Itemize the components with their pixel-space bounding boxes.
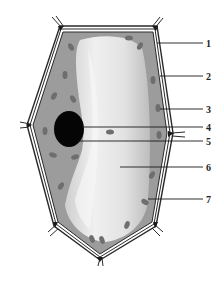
plant-cell-diagram: 1 2 3 4 5 6 7 bbox=[0, 0, 224, 283]
label-2: 2 bbox=[206, 71, 211, 82]
label-7: 7 bbox=[206, 194, 211, 205]
label-numbers: 1 2 3 4 5 6 7 bbox=[206, 38, 211, 205]
label-4: 4 bbox=[206, 122, 211, 133]
label-6: 6 bbox=[206, 162, 211, 173]
label-5: 5 bbox=[206, 136, 211, 147]
label-1: 1 bbox=[206, 38, 211, 49]
label-3: 3 bbox=[206, 104, 211, 115]
nucleus bbox=[54, 111, 84, 147]
